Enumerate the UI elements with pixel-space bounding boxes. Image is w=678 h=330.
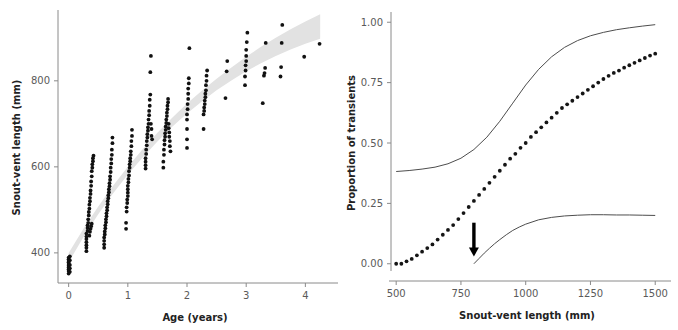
data-point <box>263 71 267 75</box>
data-point <box>89 192 93 196</box>
data-point <box>243 83 247 87</box>
panel-growth-curve: 40060080001234Age (years)Snout-vent leng… <box>0 0 339 330</box>
data-point <box>108 174 112 178</box>
data-point <box>127 180 131 184</box>
y-tick-label: 1.00 <box>361 17 383 28</box>
transients-curve-plot: 0.000.250.500.751.00500750100012501500Sn… <box>339 0 678 330</box>
curve-dot <box>425 246 429 250</box>
curve-dot <box>415 253 419 257</box>
data-point <box>86 221 90 225</box>
data-point <box>162 148 166 152</box>
data-point <box>87 207 91 211</box>
data-point <box>144 148 148 152</box>
curve-dot <box>586 88 590 92</box>
curve-dot <box>550 116 554 120</box>
data-point <box>110 148 114 152</box>
data-point <box>167 126 171 130</box>
data-point <box>146 125 150 129</box>
data-point <box>108 178 112 182</box>
data-point <box>163 143 167 147</box>
data-point <box>163 135 167 139</box>
data-point <box>186 107 190 111</box>
data-point <box>204 83 208 87</box>
data-point <box>163 131 167 135</box>
data-point <box>128 166 132 170</box>
x-tick-label: 1250 <box>578 288 603 299</box>
data-point <box>261 101 265 105</box>
curve-dot <box>545 121 549 125</box>
data-point <box>125 201 129 205</box>
x-tick-label: 1000 <box>513 288 538 299</box>
curve-dot <box>534 130 538 134</box>
data-point <box>187 82 191 86</box>
curve-dot <box>493 175 497 179</box>
data-point <box>68 254 72 258</box>
data-point <box>205 69 209 73</box>
data-point <box>85 249 89 253</box>
data-point <box>146 129 150 133</box>
data-point <box>202 106 206 110</box>
curve-dot <box>581 92 585 96</box>
data-point <box>244 69 248 73</box>
data-point <box>224 96 228 100</box>
data-point <box>128 156 132 160</box>
data-point <box>243 75 247 79</box>
curve-dot <box>653 52 657 56</box>
curve-dot <box>519 146 523 150</box>
data-point <box>130 128 134 132</box>
data-point <box>124 227 128 231</box>
data-point <box>86 217 90 221</box>
data-point <box>88 196 92 200</box>
data-point <box>167 131 171 135</box>
data-point <box>144 160 148 164</box>
data-point <box>68 263 72 267</box>
data-point <box>203 99 207 103</box>
curve-dot <box>410 257 414 261</box>
data-point <box>161 166 165 170</box>
data-point <box>126 194 130 198</box>
data-point <box>186 87 190 91</box>
data-point <box>111 136 115 140</box>
x-tick-label: 500 <box>387 288 406 299</box>
data-point <box>225 69 229 73</box>
data-point <box>89 189 93 193</box>
data-point <box>186 97 190 101</box>
data-point <box>147 113 151 117</box>
data-point <box>150 137 154 141</box>
data-point <box>185 118 189 122</box>
data-point <box>125 205 129 209</box>
curve-dot <box>467 205 471 209</box>
data-point <box>127 174 131 178</box>
curve-dot <box>570 99 574 103</box>
data-point <box>167 135 171 139</box>
data-point <box>244 54 248 58</box>
data-point <box>68 270 72 274</box>
curve-dot <box>560 106 564 110</box>
curve-dot <box>446 228 450 232</box>
curve-dot <box>482 187 486 191</box>
curve-dot <box>555 111 559 115</box>
curve-dot <box>524 141 528 145</box>
curve-dot <box>576 95 580 99</box>
data-point <box>244 48 248 52</box>
curve-dot <box>462 211 466 215</box>
x-tick-label: 0 <box>65 290 71 301</box>
data-point <box>130 134 134 138</box>
data-point <box>205 74 209 78</box>
fitted-proportion-dotted-series <box>394 52 657 266</box>
y-tick-label: 0.00 <box>361 258 383 269</box>
data-point <box>166 100 170 104</box>
x-axis-title: Age (years) <box>162 312 227 323</box>
data-point <box>244 59 248 63</box>
data-point <box>161 160 165 164</box>
data-point <box>92 154 96 158</box>
curve-dot <box>451 223 455 227</box>
data-point <box>145 143 149 147</box>
data-point <box>150 134 154 138</box>
scatter-points <box>67 23 322 275</box>
curve-dot <box>617 69 621 73</box>
data-point <box>124 221 128 225</box>
data-point <box>165 111 169 115</box>
data-point <box>203 92 207 96</box>
x-tick-label: 1 <box>125 290 131 301</box>
